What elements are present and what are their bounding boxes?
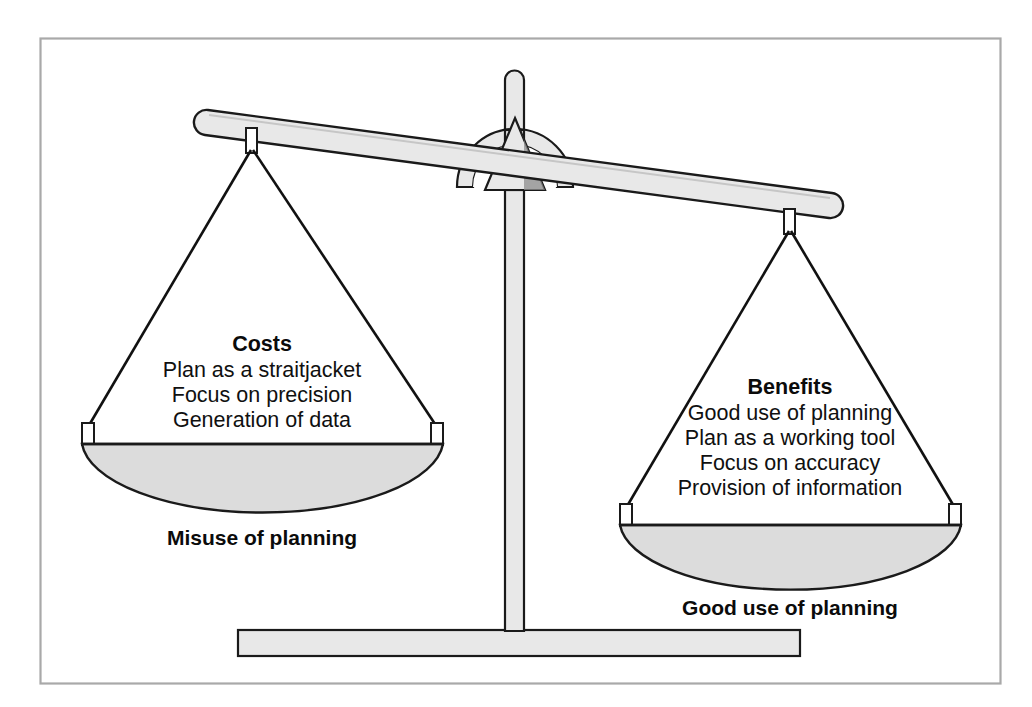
right-pan-item-1: Good use of planning — [688, 401, 892, 425]
left-pan-item-1: Plan as a straitjacket — [163, 358, 361, 382]
right-pan-item-3: Focus on accuracy — [700, 451, 881, 475]
right-pan-item-2: Plan as a working tool — [685, 426, 895, 450]
left-suspension — [82, 128, 443, 513]
figure-root: Costs Plan as a straitjacket Focus on pr… — [0, 0, 1032, 707]
left-pan-item-2: Focus on precision — [172, 383, 352, 407]
right-hanger-peg — [784, 209, 795, 234]
right-pan-item-4: Provision of information — [678, 476, 903, 500]
right-pan-text-block: Benefits Good use of planning Plan as a … — [678, 375, 903, 500]
balance-scale-illustration: Costs Plan as a straitjacket Focus on pr… — [0, 0, 1032, 707]
left-pan-bowl — [82, 444, 443, 513]
right-pan-heading: Benefits — [748, 375, 833, 399]
right-pan-tab-left — [620, 504, 632, 526]
left-pan-heading: Costs — [232, 332, 292, 356]
right-pan-bowl — [620, 525, 961, 590]
right-pan-caption: Good use of planning — [682, 596, 898, 619]
base-bar — [238, 630, 800, 656]
left-pan-item-3: Generation of data — [173, 408, 351, 432]
right-pan-tab-right — [949, 504, 961, 526]
right-suspension — [620, 209, 961, 590]
left-pan-caption: Misuse of planning — [167, 526, 357, 549]
left-hanger-peg — [246, 128, 257, 153]
left-pan-tab-left — [82, 423, 94, 445]
left-pan-text-block: Costs Plan as a straitjacket Focus on pr… — [163, 332, 361, 432]
left-pan-tab-right — [431, 423, 443, 445]
